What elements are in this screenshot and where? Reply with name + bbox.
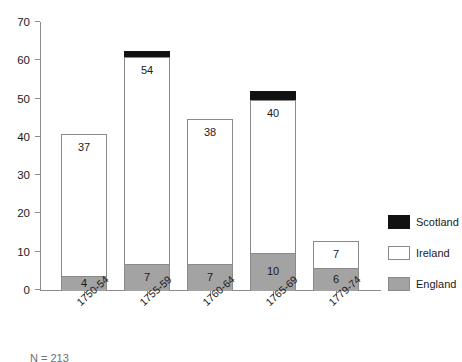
bar-group-1765-69[interactable]: 40 10 xyxy=(250,91,296,291)
bar-value-ireland: 7 xyxy=(314,248,358,261)
chart-legend: Scotland Ireland England xyxy=(388,213,462,306)
bar-segment-ireland[interactable]: 37 xyxy=(61,134,107,276)
bar-value-ireland: 54 xyxy=(125,64,169,77)
bar-value-ireland: 40 xyxy=(251,107,295,120)
y-axis-tick-label-30: 30 xyxy=(17,169,30,181)
bar-group-1760-64[interactable]: 38 7 xyxy=(187,119,233,291)
legend-item-england[interactable]: England xyxy=(388,275,462,293)
bar-segment-scotland[interactable] xyxy=(250,91,296,100)
bar-segment-ireland[interactable]: 38 xyxy=(187,119,233,265)
bar-value-ireland: 38 xyxy=(188,126,232,139)
legend-label-ireland: Ireland xyxy=(416,247,450,259)
y-axis-tick-label-50: 50 xyxy=(17,93,30,105)
stacked-bar-chart: 70 60 50 40 30 20 10 0 37 4 xyxy=(0,0,462,362)
y-axis-tick-60: 60 xyxy=(0,54,40,66)
y-axis-tick-label-0: 0 xyxy=(24,284,30,296)
bar-group-1750-54[interactable]: 37 4 xyxy=(61,134,107,291)
y-axis-tick-label-10: 10 xyxy=(17,246,30,258)
legend-item-ireland[interactable]: Ireland xyxy=(388,244,462,262)
y-axis-tick-70: 70 xyxy=(0,16,40,28)
bar-segment-ireland[interactable]: 40 xyxy=(250,100,296,253)
chart-footnote: N = 213 xyxy=(30,352,69,362)
bar-segment-ireland[interactable]: 7 xyxy=(313,241,359,268)
legend-swatch-scotland-icon xyxy=(388,215,410,229)
legend-label-england: England xyxy=(416,278,456,290)
bars-layer: 37 4 54 7 38 7 xyxy=(40,22,381,291)
y-axis-tick-label-40: 40 xyxy=(17,131,30,143)
y-axis-tick-10: 10 xyxy=(0,246,40,258)
y-axis-tick-label-60: 60 xyxy=(17,54,30,66)
y-axis-tick-20: 20 xyxy=(0,207,40,219)
legend-item-scotland[interactable]: Scotland xyxy=(388,213,462,231)
legend-swatch-ireland-icon xyxy=(388,246,410,260)
y-axis-tick-50: 50 xyxy=(0,93,40,105)
y-axis-tick-label-70: 70 xyxy=(17,16,30,28)
y-axis-tick-label-20: 20 xyxy=(17,207,30,219)
legend-swatch-england-icon xyxy=(388,277,410,291)
bar-value-ireland: 37 xyxy=(62,141,106,154)
y-axis-tick-0: 0 xyxy=(0,284,40,296)
bar-group-1755-59[interactable]: 54 7 xyxy=(124,51,170,291)
y-axis-tick-40: 40 xyxy=(0,131,40,143)
y-axis-tick-30: 30 xyxy=(0,169,40,181)
legend-label-scotland: Scotland xyxy=(416,216,459,228)
bar-segment-ireland[interactable]: 54 xyxy=(124,57,170,264)
